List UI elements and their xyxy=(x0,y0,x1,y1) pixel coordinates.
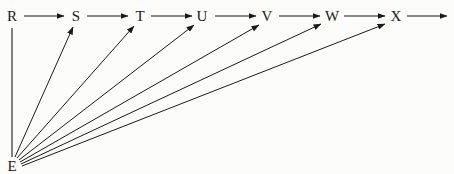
node-r: R xyxy=(7,9,17,24)
edge-e-v xyxy=(20,25,259,162)
edge-e-s xyxy=(15,27,73,157)
node-w: W xyxy=(325,9,339,24)
node-v: V xyxy=(262,9,273,24)
node-e: E xyxy=(7,159,16,174)
node-x: X xyxy=(391,9,402,24)
edge-e-w xyxy=(21,24,321,164)
node-s: S xyxy=(72,9,80,24)
edge-e-x xyxy=(22,24,385,166)
node-u: U xyxy=(197,9,208,24)
edge-e-u xyxy=(19,25,194,160)
diagram-canvas: R S T U V W X E xyxy=(0,0,454,174)
node-t: T xyxy=(135,9,144,24)
diagram-edges xyxy=(0,0,454,174)
